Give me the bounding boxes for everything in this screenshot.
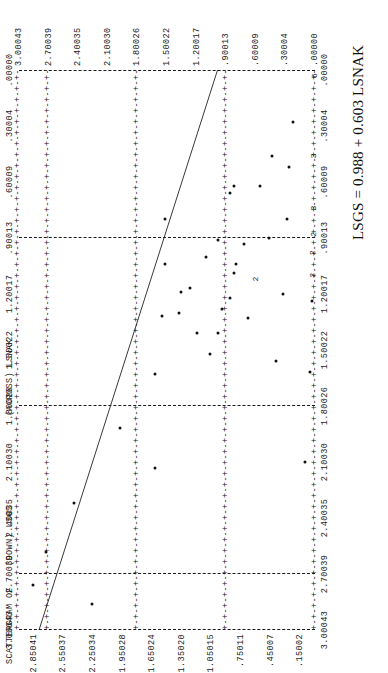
data-point-count: 2 — [252, 277, 260, 282]
data-point — [286, 218, 289, 221]
gridline-horizontal: +-+-+-+-+-+-+-+-+-+-+-+-+-+-+-+-+-+-+-+-… — [44, 70, 53, 630]
y-tick-label: 1.20017 — [192, 27, 202, 66]
regression-equation: LSGS = 0.988 + 0.603 LSNAK — [350, 45, 367, 240]
data-point — [246, 317, 249, 320]
gridline-vertical — [19, 628, 315, 630]
data-point — [274, 360, 277, 363]
y-tick-label: 2.55037 — [58, 634, 68, 673]
data-point — [188, 287, 191, 290]
data-point — [270, 154, 273, 157]
data-point — [258, 184, 261, 187]
data-point — [229, 192, 232, 195]
data-point — [233, 272, 236, 275]
data-point — [311, 300, 314, 303]
data-point — [31, 584, 34, 587]
x-tick-label: 2.10030 — [320, 443, 330, 482]
x-tick-label: 1.80026 — [320, 387, 330, 426]
x-tick-label: .00000 — [320, 53, 330, 86]
x-tick-label: .30004 — [320, 109, 330, 142]
y-tick-label: .45007 — [266, 634, 276, 667]
data-point — [233, 184, 236, 187]
data-point — [179, 291, 182, 294]
data-point — [205, 255, 208, 258]
x-axis-ticks-bottom: 3.000432.700392.400352.100301.800261.500… — [320, 70, 332, 630]
y-tick-label: 2.85041 — [29, 634, 39, 673]
data-point-count: 2 — [310, 232, 318, 237]
data-point — [209, 352, 212, 355]
x-tick-label: 1.50022 — [320, 331, 330, 370]
y-tick-label: 1.95028 — [118, 634, 128, 673]
y-tick-label: 1.05015 — [206, 634, 216, 673]
gridline-horizontal: +-+-+-+-+-+-+-+-+-+-+-+-+-+-+-+-+-+-+-+-… — [133, 70, 142, 630]
gridline-vertical — [19, 572, 315, 574]
data-point-count: 2 — [309, 251, 317, 256]
data-point — [309, 371, 312, 374]
gridline-vertical — [19, 236, 315, 238]
y-tick-label: .15002 — [295, 634, 305, 667]
data-point — [217, 332, 220, 335]
data-point-count: 2 — [309, 273, 317, 278]
y-tick-label: .75011 — [236, 634, 246, 667]
y-tick-label: .30004 — [280, 33, 290, 66]
data-point — [91, 602, 94, 605]
scatter-plot-area: +-+-+-+-+-+-+-+-+-+-+-+-+-+-+-+-+-+-+-+-… — [19, 70, 315, 630]
data-point — [73, 502, 76, 505]
y-tick-label: 2.10030 — [103, 27, 113, 66]
data-point — [118, 427, 121, 430]
data-point-count: 3 — [310, 153, 318, 158]
data-point — [44, 550, 47, 553]
data-point — [304, 460, 307, 463]
data-point — [282, 292, 285, 295]
y-tick-label: 1.80026 — [132, 27, 142, 66]
x-tick-label: 2.70039 — [320, 555, 330, 594]
data-point — [164, 218, 167, 221]
data-point — [154, 373, 157, 376]
y-tick-label: 1.65024 — [147, 634, 157, 673]
data-point-count: 6 — [311, 73, 319, 78]
data-point — [161, 315, 164, 318]
x-tick-label: 1.20017 — [320, 275, 330, 314]
y-tick-label: 2.25034 — [88, 634, 98, 673]
data-point — [195, 332, 198, 335]
y-tick-label: 3.00043 — [14, 27, 24, 66]
y-axis-ticks-left: 2.850412.550372.250341.950281.650241.350… — [19, 632, 315, 670]
y-tick-label: 1.35020 — [177, 634, 187, 673]
plot-top-rule: +-+-+-+-+-+-+-+-+-+-+-+-+-+-+-+-+-+-+-+-… — [14, 70, 23, 630]
data-point — [217, 238, 220, 241]
data-point — [229, 296, 232, 299]
data-point — [242, 242, 245, 245]
y-tick-label: .60009 — [251, 33, 261, 66]
data-point — [288, 166, 291, 169]
data-point — [221, 307, 224, 310]
data-point — [267, 236, 270, 239]
x-tick-label: .90013 — [320, 222, 330, 255]
y-tick-label: 2.70039 — [44, 27, 54, 66]
data-point — [292, 121, 295, 124]
x-tick-label: .60009 — [320, 166, 330, 199]
y-tick-label: 2.40035 — [73, 27, 83, 66]
gridline-vertical — [19, 69, 315, 71]
gridline-vertical — [19, 404, 315, 406]
data-point — [164, 263, 167, 266]
y-tick-label: .90013 — [221, 33, 231, 66]
data-point-count: 3 — [310, 206, 318, 211]
x-tick-label: 2.40035 — [320, 499, 330, 538]
x-tick-label: 3.00043 — [320, 611, 330, 650]
y-tick-label: .00000 — [310, 33, 320, 66]
data-point — [235, 263, 238, 266]
data-point — [154, 466, 157, 469]
y-axis-ticks-right: 3.000432.700392.400352.100301.800261.500… — [19, 8, 315, 68]
data-point — [177, 311, 180, 314]
gridline-horizontal: +-+-+-+-+-+-+-+-+-+-+-+-+-+-+-+-+-+-+-+-… — [222, 70, 231, 630]
y-tick-label: 1.50022 — [162, 27, 172, 66]
